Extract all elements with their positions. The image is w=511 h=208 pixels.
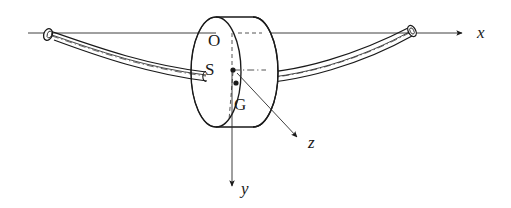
diagram-canvas — [0, 0, 511, 208]
label-x-axis: x — [477, 24, 485, 41]
label-y-axis: y — [241, 180, 249, 197]
shaft-left-upper-edge — [50, 31, 206, 72]
label-geometric-center-O: O — [208, 32, 220, 49]
rotor-diagram: O S G x y z — [0, 0, 511, 208]
label-shaft-center-S: S — [205, 61, 214, 78]
label-z-axis: z — [308, 134, 315, 151]
shaft-left-segment — [42, 27, 207, 81]
right-bearing-journal — [406, 24, 418, 38]
mass-center-G-marker — [233, 80, 238, 85]
shaft-center-S-marker — [230, 67, 235, 72]
label-mass-center-G: G — [234, 96, 246, 113]
shaft-left-lower-edge — [54, 40, 207, 81]
